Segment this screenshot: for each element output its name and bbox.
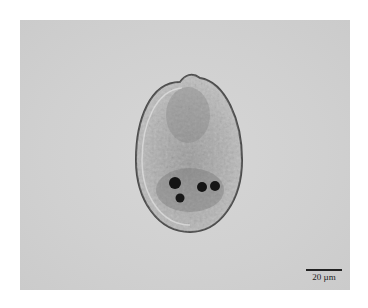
cell-illustration [20, 20, 350, 290]
scale-bar-label: 20 µm [306, 272, 342, 282]
scale-bar [306, 269, 342, 271]
micrograph-field: 20 µm [20, 20, 350, 290]
